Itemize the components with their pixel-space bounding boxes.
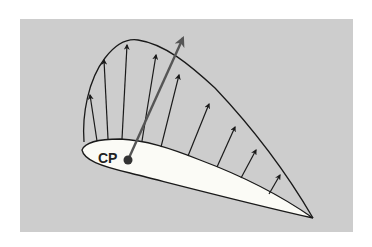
center-of-pressure-dot	[124, 156, 133, 165]
pressure-envelope-curve	[84, 40, 313, 218]
pressure-arrow	[241, 150, 256, 178]
pressure-arrow	[217, 127, 235, 167]
pressure-arrow	[269, 175, 280, 194]
cp-label: CP	[98, 150, 117, 166]
pressure-arrow	[122, 45, 127, 139]
pressure-arrow	[90, 95, 97, 141]
airfoil-diagram: CP	[0, 0, 372, 247]
pressure-arrow	[161, 75, 179, 147]
pressure-arrow	[104, 60, 108, 139]
pressure-arrow	[142, 55, 156, 141]
pressure-arrow	[188, 104, 209, 156]
